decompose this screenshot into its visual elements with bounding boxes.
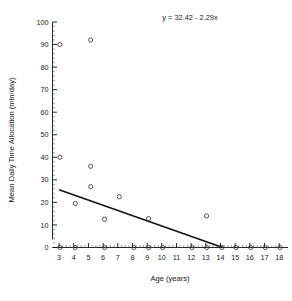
x-axis-ticks [59, 243, 279, 248]
x-tick-label: 14 [217, 253, 225, 262]
x-axis-tick-labels: 3456789101112131415161718 [57, 253, 283, 262]
x-tick-label: 3 [57, 253, 61, 262]
data-point [89, 164, 93, 168]
data-point [204, 214, 208, 218]
data-point [89, 185, 93, 189]
data-point [73, 201, 77, 205]
y-tick-label: 20 [41, 198, 49, 207]
data-point [58, 42, 62, 46]
x-tick-label: 7 [116, 253, 120, 262]
data-point [117, 195, 121, 199]
x-tick-label: 6 [101, 253, 105, 262]
y-tick-label: 100 [37, 18, 49, 27]
x-tick-label: 10 [158, 253, 166, 262]
x-tick-label: 5 [86, 253, 90, 262]
y-axis: 0102030405060708090100 [37, 18, 58, 253]
y-tick-label: 70 [41, 85, 49, 94]
y-tick-label: 90 [41, 40, 49, 49]
y-tick-label: 80 [41, 63, 49, 72]
regression-equation-annotation: y = 32.42 - 2.29x [162, 13, 218, 22]
y-tick-label: 10 [41, 221, 49, 230]
y-axis-tick-labels: 0102030405060708090100 [37, 18, 49, 253]
x-tick-label: 18 [275, 253, 283, 262]
y-tick-label: 40 [41, 153, 49, 162]
x-tick-label: 11 [173, 253, 180, 262]
y-tick-label: 30 [41, 175, 49, 184]
x-axis-title: Age (years) [150, 274, 190, 283]
y-axis-title: Mean Daily Time Allocation (min/day) [7, 77, 16, 202]
scatter-plot-figure: y = 32.42 - 2.29x 0102030405060708090100… [0, 0, 292, 301]
data-point [89, 38, 93, 42]
data-point [58, 155, 62, 159]
y-tick-label: 60 [41, 108, 49, 117]
y-tick-label: 0 [45, 243, 49, 252]
x-tick-label: 4 [72, 253, 76, 262]
x-tick-label: 8 [130, 253, 134, 262]
x-axis: 3456789101112131415161718 [53, 243, 289, 262]
chart-canvas: y = 32.42 - 2.29x 0102030405060708090100… [0, 0, 292, 301]
x-tick-label: 13 [202, 253, 210, 262]
x-tick-label: 9 [145, 253, 149, 262]
regression-line-segment [59, 190, 223, 248]
data-point [147, 217, 151, 221]
x-tick-label: 15 [231, 253, 239, 262]
y-tick-label: 50 [41, 130, 49, 139]
x-tick-label: 16 [246, 253, 254, 262]
regression-equation-text: y = 32.42 - 2.29x [162, 13, 218, 22]
data-points [58, 38, 282, 250]
x-tick-label: 12 [187, 253, 195, 262]
regression-line [59, 190, 223, 248]
y-axis-ticks [53, 22, 58, 248]
x-tick-label: 17 [261, 253, 269, 262]
data-point [102, 217, 106, 221]
